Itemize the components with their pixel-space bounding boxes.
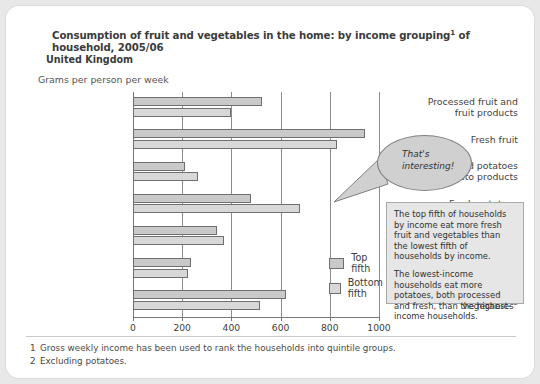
bar [133, 172, 198, 181]
legend-swatch-top-fifth [329, 258, 344, 269]
page-title: Consumption of fruit and vegetables in t… [52, 30, 512, 54]
chart-card: Consumption of fruit and vegetables in t… [6, 6, 534, 378]
region-label: United Kingdom [46, 54, 133, 65]
bar [133, 301, 260, 310]
plot-area: 02004006008001000 Top fifth Bottom fifth [133, 92, 379, 317]
x-axis-tick [281, 317, 282, 321]
bar [133, 194, 251, 203]
footnote-text: Gross weekly income has been used to ran… [40, 342, 396, 355]
callout-bubble-text: That's interesting! [402, 148, 472, 172]
x-axis-tick-label: 0 [113, 322, 153, 333]
footnote-divider [26, 336, 516, 337]
legend-item-top-fifth: Top fifth [329, 252, 387, 274]
bar [133, 204, 300, 213]
legend-label-top-fifth: Top fifth [351, 252, 387, 274]
x-axis-tick-label: 200 [162, 322, 202, 333]
footnote: 2Excluding potatoes. [30, 355, 500, 368]
legend: Top fifth Bottom fifth [329, 252, 387, 302]
units-label: Grams per person per week [38, 74, 169, 85]
x-axis-tick [231, 317, 232, 321]
bar [133, 236, 224, 245]
x-axis-tick-label: 1000 [359, 322, 399, 333]
title-text-before: Consumption of fruit and vegetables in t… [52, 30, 450, 41]
bar [133, 129, 365, 138]
x-axis-tick-label: 400 [211, 322, 251, 333]
callout-bubble: That's interesting! [377, 135, 472, 191]
footnote-text: Excluding potatoes. [40, 355, 127, 368]
bar [133, 162, 185, 171]
x-axis-tick [379, 317, 380, 321]
bar [133, 140, 337, 149]
x-axis-tick [133, 317, 134, 321]
category-label: Processed fruit andfruit products [422, 96, 518, 119]
legend-item-bottom-fifth: Bottom fifth [329, 277, 387, 299]
x-axis-line [133, 317, 379, 318]
footnotes: 1Gross weekly income has been used to ra… [30, 342, 500, 367]
bar [133, 290, 286, 299]
note-paragraph-2: The lowest-income households eat more po… [394, 269, 516, 322]
bar [133, 97, 262, 106]
annotation-note-box: The top fifth of households by income ea… [386, 202, 524, 304]
legend-label-bottom-fifth: Bottom fifth [348, 277, 388, 299]
footnote-number: 1 [30, 342, 40, 355]
note-paragraph-1: The top fifth of households by income ea… [394, 209, 516, 262]
bar [133, 258, 191, 267]
x-axis-tick [182, 317, 183, 321]
x-axis-tick [330, 317, 331, 321]
x-axis-tick-label: 800 [310, 322, 350, 333]
bar [133, 108, 231, 117]
footnote: 1Gross weekly income has been used to ra… [30, 342, 500, 355]
bar [133, 269, 188, 278]
x-axis-tick-label: 600 [261, 322, 301, 333]
legend-swatch-bottom-fifth [329, 283, 341, 294]
footnote-number: 2 [30, 355, 40, 368]
bar [133, 226, 217, 235]
